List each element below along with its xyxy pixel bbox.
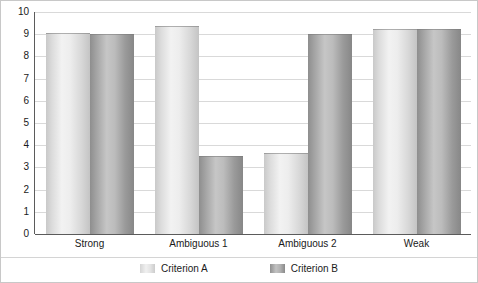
y-tick-label-3: 3	[3, 162, 29, 172]
y-axis-labels: 109876543210	[1, 12, 29, 234]
legend-label: Criterion B	[291, 263, 338, 274]
y-tick-label-1: 1	[3, 207, 29, 217]
bars-layer	[35, 12, 471, 234]
legend-label: Criterion A	[161, 263, 208, 274]
bar-cap	[90, 34, 134, 35]
y-tick-label-9: 9	[3, 29, 29, 39]
bar-cap	[308, 34, 352, 35]
bar-cap	[46, 33, 90, 34]
bar-ambiguous-2-criterion-b[interactable]	[308, 34, 352, 234]
x-axis-category-labels: StrongAmbiguous 1Ambiguous 2Weak	[35, 237, 471, 253]
bar-cap	[155, 26, 199, 27]
bar-strong-criterion-b[interactable]	[90, 34, 134, 234]
bar-cap	[417, 29, 461, 30]
bar-cap	[373, 29, 417, 30]
legend-item-criterion-a[interactable]: Criterion A	[140, 263, 208, 274]
bar-ambiguous-1-criterion-a[interactable]	[155, 26, 199, 234]
bar-group-ambiguous-1	[155, 12, 243, 234]
bar-cap	[264, 153, 308, 154]
y-tick-label-5: 5	[3, 118, 29, 128]
gridline-0	[35, 234, 471, 235]
y-tick-label-10: 10	[3, 7, 29, 17]
legend-item-criterion-b[interactable]: Criterion B	[270, 263, 338, 274]
bar-ambiguous-1-criterion-b[interactable]	[199, 156, 243, 234]
y-tick-label-4: 4	[3, 140, 29, 150]
category-label-weak: Weak	[362, 237, 471, 250]
bar-ambiguous-2-criterion-a[interactable]	[264, 153, 308, 234]
bar-weak-criterion-b[interactable]	[417, 29, 461, 234]
y-tick-label-6: 6	[3, 96, 29, 106]
bar-strong-criterion-a[interactable]	[46, 33, 90, 234]
bar-weak-criterion-a[interactable]	[373, 29, 417, 234]
bar-group-strong	[46, 12, 134, 234]
category-label-ambiguous-2: Ambiguous 2	[253, 237, 362, 250]
series-a-swatch-icon	[140, 264, 155, 273]
category-label-strong: Strong	[35, 237, 144, 250]
series-b-swatch-icon	[270, 264, 285, 273]
plot-area	[35, 12, 471, 234]
bar-cap	[199, 156, 243, 157]
y-tick-label-7: 7	[3, 74, 29, 84]
y-tick-label-0: 0	[3, 229, 29, 239]
bar-group-weak	[373, 12, 461, 234]
y-tick-label-8: 8	[3, 51, 29, 61]
bar-chart: 109876543210 StrongAmbiguous 1Ambiguous …	[0, 0, 478, 283]
category-label-ambiguous-1: Ambiguous 1	[144, 237, 253, 250]
bar-group-ambiguous-2	[264, 12, 352, 234]
y-tick-label-2: 2	[3, 185, 29, 195]
legend-separator	[1, 257, 477, 258]
chart-legend: Criterion ACriterion B	[1, 263, 477, 274]
